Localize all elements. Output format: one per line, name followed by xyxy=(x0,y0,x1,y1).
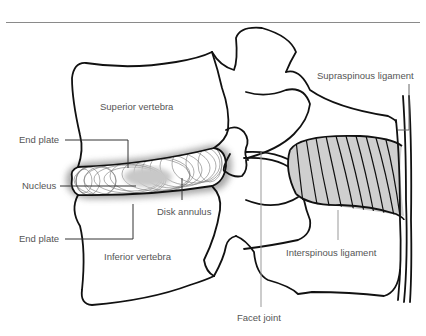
label-end-plate-bottom: End plate xyxy=(19,233,59,244)
label-supraspinous-ligament: Supraspinous ligament xyxy=(317,70,414,81)
label-facet-joint: Facet joint xyxy=(237,312,281,323)
nucleus xyxy=(124,167,172,187)
label-end-plate-top: End plate xyxy=(19,134,59,145)
label-inferior-vertebra: Inferior vertebra xyxy=(104,251,171,262)
label-nucleus: Nucleus xyxy=(22,180,56,191)
label-superior-vertebra: Superior vertebra xyxy=(100,101,173,112)
label-disk-annulus: Disk annulus xyxy=(157,206,211,217)
label-interspinous-ligament: Interspinous ligament xyxy=(286,247,376,258)
spine-diagram xyxy=(0,0,426,336)
